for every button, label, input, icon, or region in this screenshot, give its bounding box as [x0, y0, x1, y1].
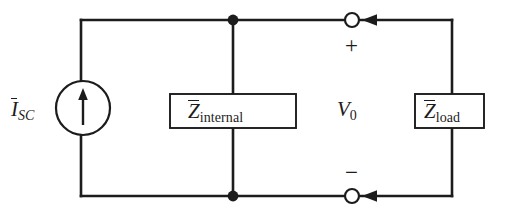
output-voltage-label: V0: [337, 99, 357, 123]
output-terminal-top-icon: [345, 13, 359, 27]
internal-impedance-subscript: internal: [200, 110, 244, 125]
junction-dot-top-icon: [228, 15, 239, 26]
current-source-label: ISC: [11, 97, 34, 123]
load-impedance-symbol: Z: [424, 99, 436, 122]
internal-impedance-label: Zinternal: [188, 99, 243, 125]
circuit-diagram-canvas: ISC Zinternal V0 Zload + −: [0, 0, 506, 220]
load-impedance-label: Zload: [424, 99, 460, 125]
polarity-plus-label: +: [345, 34, 358, 57]
output-terminal-bottom-icon: [345, 189, 359, 203]
current-arrow-top-icon: [362, 14, 377, 26]
current-source-subscript: SC: [18, 108, 34, 123]
current-source-symbol: I: [11, 97, 18, 120]
output-voltage-subscript: 0: [350, 108, 357, 123]
junction-dot-bottom-icon: [228, 191, 239, 202]
internal-impedance-symbol: Z: [188, 99, 200, 122]
output-voltage-symbol: V: [337, 97, 350, 121]
current-arrow-bottom-icon: [362, 190, 377, 202]
load-impedance-subscript: load: [436, 110, 461, 125]
polarity-minus-label: −: [345, 161, 358, 184]
